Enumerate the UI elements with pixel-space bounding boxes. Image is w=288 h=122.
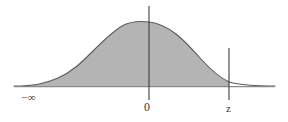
normal-distribution-figure: −∞ 0 z: [0, 0, 288, 122]
axis-label-z: z: [226, 103, 231, 114]
axis-label-negative-infinity: −∞: [21, 92, 36, 103]
axis-label-mean-zero: 0: [144, 102, 150, 113]
